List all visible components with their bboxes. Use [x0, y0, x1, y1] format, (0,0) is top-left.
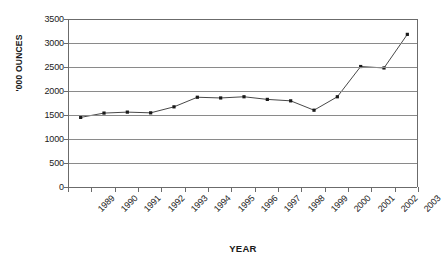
x-tick-mark-1990 — [91, 187, 92, 192]
plot-area — [68, 19, 418, 187]
x-tick-mark-2002 — [371, 187, 372, 192]
y-tick-mark-2500 — [64, 67, 69, 68]
x-tick-mark-1996 — [231, 187, 232, 192]
data-point-2000 — [336, 95, 339, 98]
x-tick-label-1989: 1989 — [95, 193, 116, 214]
gridline-1500 — [69, 115, 417, 116]
x-tick-mark-1993 — [161, 187, 162, 192]
x-tick-label-2002: 2002 — [399, 193, 420, 214]
x-tick-label-1996: 1996 — [259, 193, 280, 214]
x-tick-mark-2000 — [325, 187, 326, 192]
x-tick-label-1990: 1990 — [119, 193, 140, 214]
data-point-1992 — [149, 111, 152, 114]
x-axis-tick-labels: 1989199019911992199319941995199619971998… — [68, 193, 418, 237]
x-tick-mark-1989 — [68, 187, 69, 192]
data-point-1997 — [266, 98, 269, 101]
series-line-gold-production — [69, 19, 419, 187]
data-point-1996 — [242, 95, 245, 98]
x-tick-label-1992: 1992 — [165, 193, 186, 214]
x-tick-mark-2001 — [348, 187, 349, 192]
x-tick-label-1997: 1997 — [282, 193, 303, 214]
x-tick-mark-1995 — [208, 187, 209, 192]
x-tick-mark-2003 — [395, 187, 396, 192]
y-tick-mark-1000 — [64, 139, 69, 140]
y-tick-mark-500 — [64, 163, 69, 164]
y-tick-label-3500: 3500 — [24, 14, 64, 24]
y-tick-label-1500: 1500 — [24, 110, 64, 120]
x-tick-label-1994: 1994 — [212, 193, 233, 214]
x-tick-mark-1994 — [185, 187, 186, 192]
y-tick-label-1000: 1000 — [24, 134, 64, 144]
gridline-2000 — [69, 91, 417, 92]
y-axis-tick-marks — [68, 19, 69, 187]
x-tick-label-1999: 1999 — [329, 193, 350, 214]
data-point-1998 — [289, 99, 292, 102]
x-tick-mark-end — [418, 187, 419, 192]
x-tick-label-1998: 1998 — [305, 193, 326, 214]
chart-title — [0, 0, 433, 6]
y-tick-mark-1500 — [64, 115, 69, 116]
series-polyline — [81, 34, 408, 117]
y-tick-label-2000: 2000 — [24, 86, 64, 96]
data-point-1989 — [79, 116, 82, 119]
x-tick-mark-1997 — [255, 187, 256, 192]
gridline-2500 — [69, 67, 417, 68]
data-point-1993 — [172, 105, 175, 108]
x-axis-title: YEAR — [68, 243, 418, 254]
x-tick-mark-1991 — [115, 187, 116, 192]
data-point-1991 — [126, 111, 129, 114]
y-tick-mark-3000 — [64, 43, 69, 44]
y-tick-mark-2000 — [64, 91, 69, 92]
y-tick-label-2500: 2500 — [24, 62, 64, 72]
data-point-1994 — [196, 96, 199, 99]
gridline-3000 — [69, 43, 417, 44]
x-tick-label-2003: 2003 — [422, 193, 443, 214]
x-tick-label-2001: 2001 — [375, 193, 396, 214]
y-tick-label-500: 500 — [24, 158, 64, 168]
y-tick-mark-3500 — [64, 19, 69, 20]
x-tick-label-1995: 1995 — [235, 193, 256, 214]
y-tick-label-0: 0 — [24, 182, 64, 192]
data-point-1995 — [219, 96, 222, 99]
x-tick-mark-1998 — [278, 187, 279, 192]
data-point-1999 — [312, 109, 315, 112]
x-tick-mark-1999 — [301, 187, 302, 192]
data-point-2003 — [406, 33, 409, 36]
x-tick-label-1991: 1991 — [142, 193, 163, 214]
x-tick-label-1993: 1993 — [189, 193, 210, 214]
x-tick-mark-1992 — [138, 187, 139, 192]
y-tick-label-3000: 3000 — [24, 38, 64, 48]
gridline-500 — [69, 163, 417, 164]
gridline-3500 — [69, 19, 417, 20]
gridline-1000 — [69, 139, 417, 140]
x-tick-label-2000: 2000 — [352, 193, 373, 214]
y-axis-tick-labels: 3500300025002000150010005000 — [20, 0, 64, 266]
